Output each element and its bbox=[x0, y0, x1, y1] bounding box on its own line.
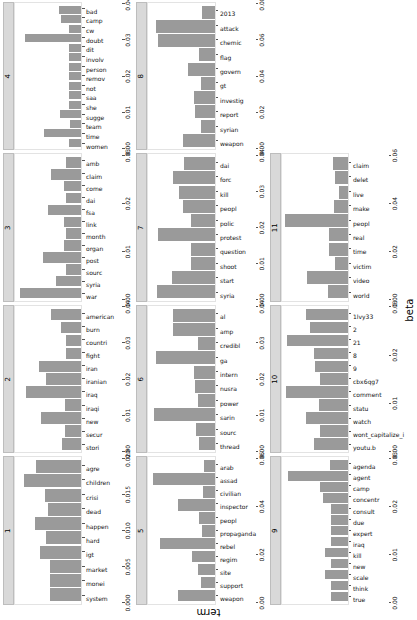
category-tick-label: iraq bbox=[353, 542, 365, 548]
category-tick: bad bbox=[82, 5, 122, 13]
category-tick: true bbox=[349, 593, 389, 603]
category-tick: kill bbox=[216, 185, 256, 198]
category-tick-label: 9 bbox=[353, 366, 357, 372]
category-tick-label: live bbox=[353, 192, 364, 198]
bar bbox=[62, 438, 81, 450]
category-tick: statu bbox=[349, 400, 389, 412]
category-tick: agenda bbox=[349, 459, 389, 469]
facet-topic-9: 9truethinkscalenewkilliraqexpertdueconsu… bbox=[270, 457, 401, 606]
bar bbox=[66, 193, 81, 204]
bar bbox=[157, 285, 215, 298]
category-tick: 8 bbox=[349, 347, 389, 359]
value-axis-tick-label: 0.00 bbox=[392, 596, 398, 609]
category-tick-label: kill bbox=[220, 192, 228, 198]
bar bbox=[330, 460, 348, 470]
facet-panel bbox=[14, 305, 82, 454]
plot-area bbox=[284, 458, 348, 605]
category-axis: warsyriasourcpostorganmonthlinkfsadaicom… bbox=[82, 154, 122, 303]
category-tick-label: team bbox=[86, 124, 102, 130]
category-tick: system bbox=[82, 589, 122, 602]
bar bbox=[69, 63, 82, 71]
value-axis-tick-label: 0.005 bbox=[125, 558, 131, 575]
value-axis-tick-label: 0.00 bbox=[259, 293, 265, 306]
bar bbox=[51, 169, 81, 180]
bar bbox=[199, 48, 214, 61]
category-tick-label: fight bbox=[86, 353, 100, 359]
facet-topic-8: 8weaponsyrianreportinvestiggtgovernflagc… bbox=[136, 2, 267, 151]
category-tick-label: make bbox=[353, 206, 369, 212]
category-tick-label: peopl bbox=[220, 518, 237, 524]
bar bbox=[61, 322, 81, 334]
category-tick-label: iranian bbox=[86, 379, 107, 385]
value-axis-tick-label: 0.03 bbox=[259, 336, 265, 349]
category-tick-label: sugge bbox=[86, 115, 104, 121]
category-tick: agent bbox=[349, 470, 389, 480]
bar bbox=[48, 503, 82, 516]
category-tick-label: new bbox=[86, 419, 98, 425]
bar bbox=[204, 460, 215, 472]
value-axis-tick-label: 0.02 bbox=[259, 221, 265, 234]
bar bbox=[40, 546, 81, 559]
facet-strip-label: 4 bbox=[3, 2, 14, 151]
plot-area bbox=[17, 306, 81, 453]
category-tick-label: nusra bbox=[220, 386, 237, 392]
category-tick: claim bbox=[82, 168, 122, 179]
facet-panel bbox=[14, 154, 82, 303]
plot-area bbox=[17, 3, 81, 150]
bar bbox=[198, 394, 215, 407]
bar bbox=[335, 171, 348, 184]
category-tick-label: system bbox=[86, 596, 108, 602]
bar bbox=[24, 474, 81, 487]
category-tick-label: iran bbox=[86, 366, 98, 372]
category-tick-label: sourc bbox=[86, 270, 102, 276]
bar bbox=[331, 537, 348, 547]
bar bbox=[201, 120, 215, 133]
category-tick-label: countri bbox=[86, 340, 107, 346]
category-axis: storisecurnewiraqiiraqiranianiranfightco… bbox=[82, 305, 122, 454]
bar bbox=[306, 412, 348, 424]
bar bbox=[59, 6, 82, 14]
category-tick-label: camp bbox=[353, 486, 370, 492]
facet-strip-label: 8 bbox=[136, 2, 147, 151]
value-axis-tick-label: 0.01 bbox=[125, 245, 131, 258]
facet-strip-label: 6 bbox=[136, 305, 147, 454]
value-axis-tick-label: 0.04 bbox=[259, 500, 265, 513]
category-tick-label: come bbox=[86, 186, 103, 192]
category-tick-label: flag bbox=[220, 55, 231, 61]
category-tick-label: not bbox=[86, 86, 96, 92]
category-tick-label: involv bbox=[86, 57, 104, 63]
category-tick: victim bbox=[349, 257, 389, 270]
value-axis: 0.000.010.020.03 bbox=[389, 307, 401, 452]
bar bbox=[334, 200, 348, 213]
category-tick: women bbox=[82, 140, 122, 148]
facet-panel bbox=[14, 457, 82, 606]
facet-topic-2: 2storisecurnewiraqiiraqiranianiranfightc… bbox=[3, 305, 134, 454]
value-axis: 0.000.020.040.06 bbox=[256, 459, 268, 604]
bar bbox=[194, 366, 215, 379]
category-tick-label: time bbox=[86, 134, 100, 140]
category-tick: support bbox=[216, 577, 256, 589]
value-axis-tick-label: 0.02 bbox=[392, 348, 398, 361]
value-axis-tick-label: 0.00 bbox=[125, 445, 131, 458]
bar bbox=[314, 348, 348, 360]
facet-strip-label: 1 bbox=[3, 457, 14, 606]
category-tick: children bbox=[82, 474, 122, 487]
category-tick-label: delet bbox=[353, 177, 368, 183]
category-tick-label: fsa bbox=[86, 210, 95, 216]
plot-area bbox=[284, 155, 348, 302]
bar bbox=[194, 91, 215, 104]
category-tick-label: site bbox=[220, 570, 231, 576]
bar bbox=[198, 337, 214, 350]
category-tick-label: agent bbox=[353, 475, 370, 481]
category-tick-label: secur bbox=[86, 432, 102, 438]
bar bbox=[196, 423, 214, 436]
value-axis-tick-label: 0.02 bbox=[392, 245, 398, 258]
bar bbox=[69, 25, 81, 33]
category-axis: systemmoneimarketigthardhappendeadcrisic… bbox=[82, 457, 122, 606]
bar bbox=[329, 243, 348, 256]
value-axis-tick-label: 0.010 bbox=[125, 522, 131, 539]
category-tick: watch bbox=[349, 413, 389, 425]
category-tick: person bbox=[82, 62, 122, 70]
category-tick: intern bbox=[216, 365, 256, 378]
plot-area bbox=[150, 3, 214, 150]
